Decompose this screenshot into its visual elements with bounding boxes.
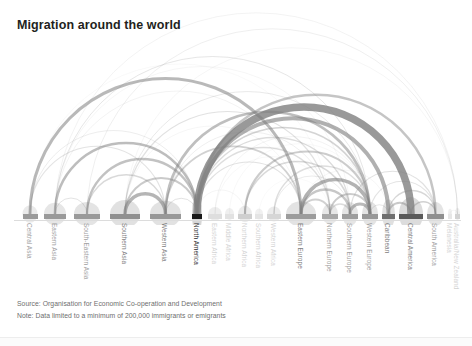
node-label-melanesia: Melanesia — [446, 223, 453, 253]
node-label-northern-europe: Northern Europe — [326, 223, 333, 272]
node-label-north-america: North America — [193, 223, 200, 265]
node-label-southern-europe: Southern Europe — [346, 223, 353, 273]
node-label-south-eastern-asia: South-Eastern Asia — [83, 223, 90, 280]
axis-baseline — [14, 220, 461, 221]
node-label-eastern-europe: Eastern Europe — [297, 223, 304, 269]
arc-link — [197, 190, 245, 214]
node-label-western-europe: Western Europe — [366, 223, 373, 270]
node-bump — [342, 202, 358, 225]
node-label-northern-africa: Northern Africa — [241, 223, 248, 267]
node-bump — [110, 200, 140, 225]
footer-note: Note: Data limited to a minimum of 200,0… — [17, 312, 226, 319]
node-label-caribbean: Caribbean — [384, 223, 391, 253]
node-bump — [322, 204, 338, 225]
node-label-eastern-asia: Eastern Asia — [51, 223, 58, 260]
node-label-central-asia: Central Asia — [26, 223, 33, 259]
bottom-band — [0, 337, 472, 346]
node-label-southern-africa: Southern Africa — [255, 223, 262, 268]
node-bump — [44, 203, 66, 225]
node-bump — [382, 199, 395, 225]
node-bump — [150, 201, 181, 225]
node-bump — [427, 202, 444, 225]
arc-link — [30, 64, 330, 214]
node-label-south-america: South America — [431, 223, 438, 266]
node-bump — [448, 209, 452, 220]
arc-diagram — [0, 0, 472, 225]
node-bump — [399, 197, 423, 225]
node-bump — [286, 201, 316, 225]
node-label-australia-nz: Australia/New Zealand — [453, 223, 460, 289]
node-bump — [225, 208, 234, 220]
footer-source: Source: Organisation for Economic Co-ope… — [17, 300, 222, 307]
node-label-central-america: Central America — [407, 223, 414, 270]
node-label-southern-asia: Southern Asia — [121, 223, 128, 264]
node-label-eastern-africa: Eastern Africa — [211, 223, 218, 264]
node-bump — [455, 208, 460, 220]
node-bump — [255, 208, 263, 219]
node-bump — [74, 202, 100, 225]
node-label-middle-africa: Middle Africa — [225, 223, 232, 261]
node-label-western-africa: Western Africa — [270, 223, 277, 266]
node-label-western-asia: Western Asia — [161, 223, 168, 262]
